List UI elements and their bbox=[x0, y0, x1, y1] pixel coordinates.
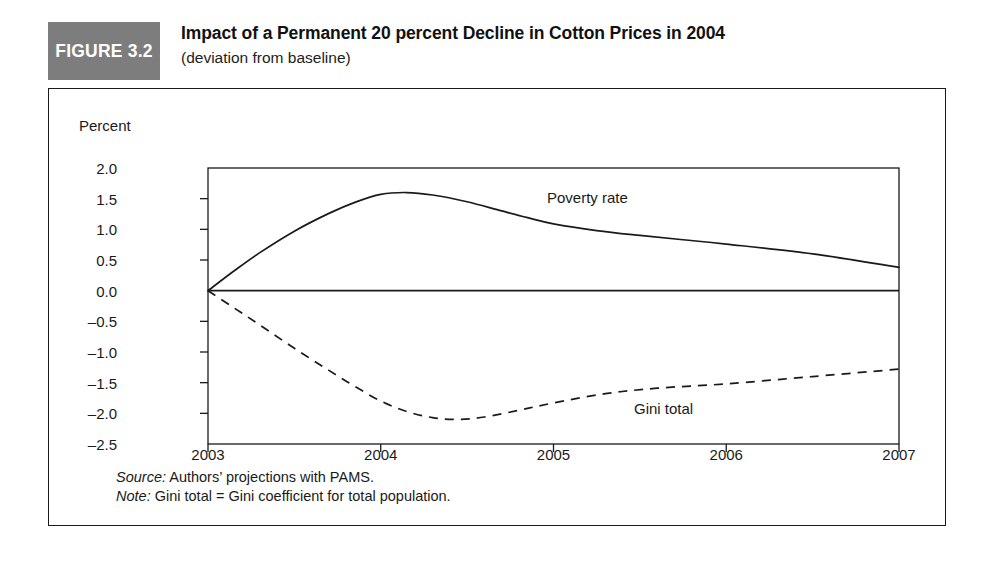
y-tick-label: 0.5 bbox=[69, 252, 117, 269]
note-line: Note: Gini total = Gini coefficient for … bbox=[116, 487, 916, 506]
figure-number-badge: FIGURE 3.2 bbox=[48, 22, 160, 80]
y-tick-label: –1.0 bbox=[69, 344, 117, 361]
x-tick-label: 2003 bbox=[168, 446, 248, 463]
y-tick-label: 0.0 bbox=[69, 282, 117, 299]
figure-page: FIGURE 3.2 Impact of a Permanent 20 perc… bbox=[0, 0, 995, 581]
y-tick-label: 2.0 bbox=[69, 160, 117, 177]
plot-box-border bbox=[208, 168, 899, 444]
y-tick-label: –2.5 bbox=[69, 436, 117, 453]
y-tick-label: –0.5 bbox=[69, 313, 117, 330]
source-label: Source: bbox=[116, 469, 166, 485]
x-tick-label: 2005 bbox=[514, 446, 594, 463]
series-line-gini-total bbox=[208, 291, 899, 420]
x-tick-label: 2004 bbox=[341, 446, 421, 463]
y-tick-label: 1.5 bbox=[69, 190, 117, 207]
note-text: Gini total = Gini coefficient for total … bbox=[151, 488, 451, 504]
series-line-poverty-rate bbox=[208, 193, 899, 291]
source-line: Source: Authors’ projections with PAMS. bbox=[116, 468, 916, 487]
series-label-gini-total: Gini total bbox=[634, 400, 693, 417]
y-tick-marks bbox=[200, 199, 208, 414]
y-axis-tick-labels: 2.01.51.00.50.0–0.5–1.0–1.5–2.0–2.5 bbox=[65, 89, 117, 527]
figure-header: FIGURE 3.2 Impact of a Permanent 20 perc… bbox=[48, 22, 894, 82]
source-text: Authors’ projections with PAMS. bbox=[166, 469, 374, 485]
chart-area: Percent 2.01.51.00.50.0–0.5–1.0–1.5–2.0–… bbox=[49, 89, 947, 527]
y-tick-label: –1.5 bbox=[69, 374, 117, 391]
x-tick-label: 2007 bbox=[859, 446, 939, 463]
series-label-poverty-rate: Poverty rate bbox=[547, 189, 628, 206]
figure-notes: Source: Authors’ projections with PAMS. … bbox=[116, 468, 916, 506]
x-tick-label: 2006 bbox=[686, 446, 766, 463]
note-label: Note: bbox=[116, 488, 151, 504]
y-tick-label: 1.0 bbox=[69, 221, 117, 238]
figure-subtitle: (deviation from baseline) bbox=[181, 49, 351, 67]
figure-frame: Percent 2.01.51.00.50.0–0.5–1.0–1.5–2.0–… bbox=[48, 88, 946, 526]
figure-title: Impact of a Permanent 20 percent Decline… bbox=[181, 23, 725, 44]
y-tick-label: –2.0 bbox=[69, 405, 117, 422]
